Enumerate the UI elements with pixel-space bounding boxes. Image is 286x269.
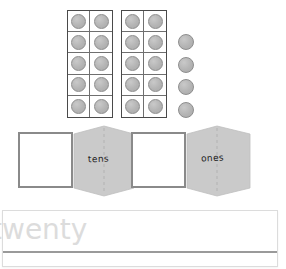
ten-frame-cell[interactable] xyxy=(68,53,90,74)
counter-chip[interactable] xyxy=(178,57,194,73)
counter-chip[interactable] xyxy=(148,35,163,50)
counter-chip[interactable] xyxy=(148,56,163,71)
ten-frame-cell[interactable] xyxy=(68,96,90,117)
counter-chip[interactable] xyxy=(71,77,86,92)
counter-chip[interactable] xyxy=(94,99,109,114)
ten-frame-cell[interactable] xyxy=(122,75,144,96)
ten-frame-cell[interactable] xyxy=(68,75,90,96)
ten-frame-cell[interactable] xyxy=(144,32,166,53)
ones-answer-box[interactable] xyxy=(131,132,186,188)
counter-chip[interactable] xyxy=(125,56,140,71)
counter-chip[interactable] xyxy=(125,35,140,50)
number-word-text: twenty xyxy=(0,216,87,244)
ten-frame-cell[interactable] xyxy=(144,11,166,32)
counter-chip[interactable] xyxy=(148,77,163,92)
ten-frame-cell[interactable] xyxy=(90,75,112,96)
counter-chip[interactable] xyxy=(148,99,163,114)
counter-chip[interactable] xyxy=(178,79,194,95)
counter-chip[interactable] xyxy=(125,14,140,29)
loose-counters-group[interactable] xyxy=(176,34,196,118)
ten-frame-cell[interactable] xyxy=(144,75,166,96)
writing-rule-line xyxy=(3,251,278,253)
ten-frame-cell[interactable] xyxy=(68,32,90,53)
ten-frame-2[interactable] xyxy=(121,10,167,118)
ten-frame-cell[interactable] xyxy=(90,32,112,53)
ten-frame-cell[interactable] xyxy=(68,11,90,32)
ten-frame-cell[interactable] xyxy=(122,32,144,53)
worksheet-canvas: tens ones twenty xyxy=(0,0,286,269)
ten-frame-cell[interactable] xyxy=(122,11,144,32)
counter-chip[interactable] xyxy=(71,56,86,71)
ten-frame-1[interactable] xyxy=(67,10,113,118)
ones-label: ones xyxy=(201,152,225,163)
ten-frame-cell[interactable] xyxy=(122,53,144,74)
counter-chip[interactable] xyxy=(94,77,109,92)
counter-chip[interactable] xyxy=(94,56,109,71)
counter-chip[interactable] xyxy=(125,77,140,92)
counter-chip[interactable] xyxy=(178,34,194,50)
ten-frame-cell[interactable] xyxy=(144,96,166,117)
ten-frame-cell[interactable] xyxy=(90,96,112,117)
tens-label: tens xyxy=(88,154,109,165)
ten-frame-cell[interactable] xyxy=(144,53,166,74)
ten-frame-cell[interactable] xyxy=(90,11,112,32)
counter-chip[interactable] xyxy=(71,35,86,50)
counter-chip[interactable] xyxy=(71,99,86,114)
counter-chip[interactable] xyxy=(178,102,194,118)
counter-chip[interactable] xyxy=(94,14,109,29)
counter-chip[interactable] xyxy=(71,14,86,29)
counter-chip[interactable] xyxy=(148,14,163,29)
ten-frame-cell[interactable] xyxy=(122,96,144,117)
ten-frame-cell[interactable] xyxy=(90,53,112,74)
tens-answer-box[interactable] xyxy=(18,132,73,188)
counter-chip[interactable] xyxy=(94,35,109,50)
counter-chip[interactable] xyxy=(125,99,140,114)
